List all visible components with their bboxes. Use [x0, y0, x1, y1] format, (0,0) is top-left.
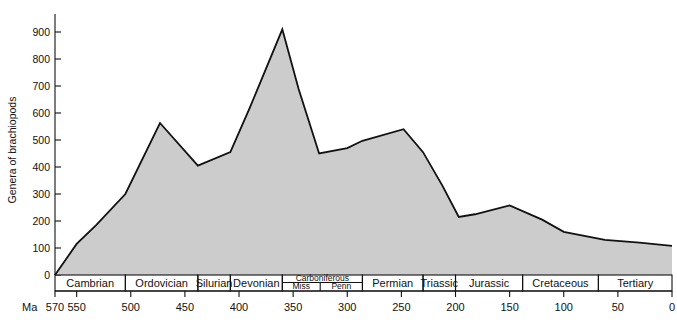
y-tick-label: 0 — [44, 269, 50, 281]
brachiopod-diversity-chart: Genera of brachiopods 010020030040050060… — [0, 0, 677, 328]
x-tick-label: 300 — [338, 301, 356, 313]
x-tick-label: 450 — [176, 301, 194, 313]
chart-svg: Genera of brachiopods 010020030040050060… — [0, 0, 677, 328]
y-tick-label: 600 — [32, 107, 50, 119]
y-tick-label: 100 — [32, 242, 50, 254]
x-tick-label: 50 — [612, 301, 624, 313]
y-axis-label: Genera of brachiopods — [6, 97, 18, 204]
x-tick-label: 350 — [284, 301, 302, 313]
x-axis-unit-label: Ma — [22, 301, 38, 313]
x-tick-label: 200 — [446, 301, 464, 313]
period-label: Permian — [372, 277, 413, 289]
period-label: Cambrian — [66, 277, 114, 289]
period-label: Silurian — [196, 277, 233, 289]
y-axis-ticks: 0100200300400500600700800900 — [32, 26, 61, 281]
x-tick-label: 150 — [500, 301, 518, 313]
x-axis-ticks: 570550500450400350300250200150100500 — [46, 291, 675, 313]
y-tick-label: 500 — [32, 134, 50, 146]
period-sublabel: Penn — [331, 281, 351, 291]
period-label: Tertiary — [617, 277, 654, 289]
y-tick-label: 700 — [32, 80, 50, 92]
x-tick-label: 0 — [669, 301, 675, 313]
area-fill — [55, 29, 672, 275]
period-label: Jurassic — [469, 277, 510, 289]
y-tick-label: 400 — [32, 161, 50, 173]
y-tick-label: 300 — [32, 188, 50, 200]
y-tick-label: 900 — [32, 26, 50, 38]
period-label: Ordovician — [135, 277, 188, 289]
period-label: Devonian — [233, 277, 279, 289]
x-tick-label: 570 — [46, 301, 64, 313]
geologic-period-bands: CambrianOrdovicianSilurianDevonianCarbon… — [55, 273, 672, 291]
x-tick-label: 100 — [555, 301, 573, 313]
period-sublabel: Miss — [293, 281, 310, 291]
period-label: Triassic — [421, 277, 459, 289]
x-tick-label: 550 — [67, 301, 85, 313]
x-tick-label: 400 — [230, 301, 248, 313]
y-tick-label: 800 — [32, 53, 50, 65]
x-tick-label: 250 — [392, 301, 410, 313]
period-label: Cretaceous — [532, 277, 589, 289]
x-tick-label: 500 — [122, 301, 140, 313]
y-tick-label: 200 — [32, 215, 50, 227]
